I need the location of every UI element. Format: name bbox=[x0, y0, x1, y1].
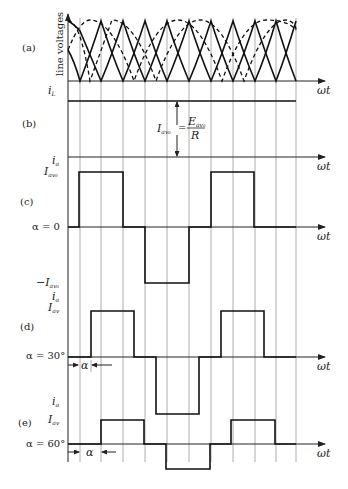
alpha-marker-d: α bbox=[68, 359, 112, 372]
neg-iav0-label: −Iav₀ bbox=[36, 276, 60, 289]
svg-text:α: α bbox=[86, 446, 94, 459]
svg-text:Eav₀: Eav₀ bbox=[187, 115, 206, 128]
rectifier-waveform-diagram: (a) line voltages ωt iL ωt (b) Iav₀ = Ea… bbox=[0, 0, 348, 489]
panel-b-label: (b) bbox=[22, 118, 36, 129]
wt-label-e: ωt bbox=[317, 447, 331, 460]
ia-label-c: ia bbox=[52, 154, 60, 167]
alpha-marker-e: α bbox=[68, 446, 116, 459]
panel-d: ia Iav (d) α = 30° ωt α bbox=[20, 290, 331, 414]
ia-label-d: ia bbox=[52, 290, 60, 303]
wt-label-c: ωt bbox=[317, 230, 331, 243]
svg-text:α: α bbox=[81, 359, 89, 372]
svg-text:R: R bbox=[190, 129, 199, 142]
wt-label-b: ωt bbox=[317, 160, 331, 173]
ia-label-e: ia bbox=[52, 395, 60, 408]
alpha-30-label: α = 30° bbox=[26, 350, 65, 361]
iL-label: iL bbox=[48, 84, 56, 97]
wt-label-d: ωt bbox=[317, 360, 331, 373]
phase-current-d bbox=[68, 311, 296, 414]
panel-c-label: (c) bbox=[20, 196, 34, 207]
panel-e: ia Iav (e) α = 60° ωt α bbox=[18, 395, 331, 469]
line-voltages-label: line voltages bbox=[54, 12, 65, 76]
wt-label-a: ωt bbox=[317, 84, 331, 97]
panel-c: ia Iav₀ (c) α = 0 ωt −Iav₀ bbox=[20, 154, 331, 289]
iav-label-e: Iav bbox=[47, 413, 60, 426]
alpha-0-label: α = 0 bbox=[32, 221, 60, 232]
svg-text:Iav₀: Iav₀ bbox=[156, 122, 171, 135]
svg-text:=: = bbox=[178, 122, 186, 133]
panel-a-label: (a) bbox=[22, 42, 36, 53]
alpha-60-label: α = 60° bbox=[26, 438, 65, 449]
panel-e-label: (e) bbox=[18, 417, 32, 428]
vertical-gridlines bbox=[80, 18, 296, 462]
panel-d-label: (d) bbox=[20, 321, 34, 332]
iav-equation: Iav₀ = Eav₀ R bbox=[156, 115, 206, 142]
